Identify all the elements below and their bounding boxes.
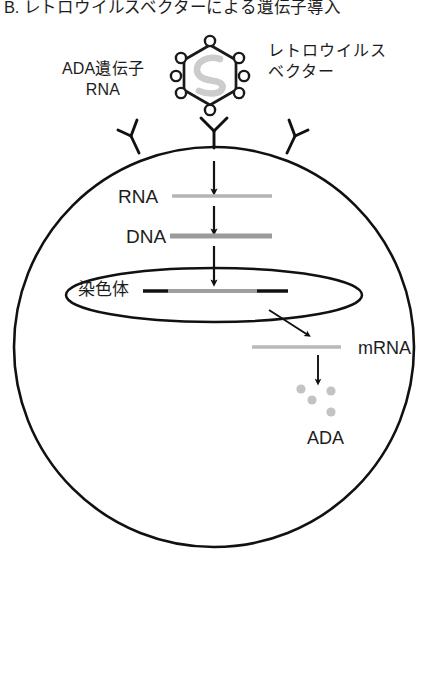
- label-chromosome: 染色体: [78, 279, 130, 300]
- label-retrovirus-vector: レトロウイルス ベクター: [268, 40, 418, 82]
- virus-spike-knobs: [171, 36, 249, 115]
- virus-rna-s-glyph: [197, 58, 223, 94]
- virus-spike-knob: [176, 88, 186, 98]
- ada-protein-dot: [307, 395, 316, 404]
- figure-root: B. レトロウイルスベクターによる遺伝子導入: [0, 0, 421, 697]
- label-rna: RNA: [118, 186, 158, 207]
- receptor-icon-right: [287, 120, 308, 153]
- virus-spike-knob: [171, 71, 181, 81]
- label-retrovirus-vector-line2: ベクター: [268, 61, 418, 82]
- label-ada: ADA: [307, 428, 344, 449]
- label-dna: DNA: [126, 226, 166, 247]
- label-ada-gene-rna-line1: ADA遺伝子: [62, 60, 144, 77]
- label-mrna: mRNA: [358, 338, 411, 359]
- membrane-receptors-group: [118, 118, 308, 153]
- virus-spike-knob: [234, 53, 244, 63]
- virus-spike-knob: [205, 105, 215, 115]
- virus-spike-knob: [176, 53, 186, 63]
- receptor-icon-center: [201, 118, 227, 148]
- virus-spike-knob: [205, 36, 215, 46]
- receptor-icon-left: [118, 120, 139, 153]
- label-retrovirus-vector-line1: レトロウイルス: [268, 42, 387, 59]
- ada-protein-dot: [326, 386, 335, 395]
- ada-protein-dot: [296, 384, 305, 393]
- virus-spike-knob: [239, 71, 249, 81]
- label-ada-gene-rna: ADA遺伝子 RNA: [34, 58, 172, 100]
- virus-spike-knob: [234, 88, 244, 98]
- label-ada-gene-rna-line2: RNA: [34, 79, 172, 100]
- ada-protein-dot: [326, 407, 335, 416]
- retrovirus-particle: [171, 36, 249, 115]
